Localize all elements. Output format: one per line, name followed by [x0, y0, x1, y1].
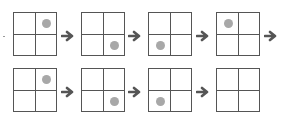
arrow-right-icon — [128, 28, 142, 40]
dot-icon — [156, 97, 165, 106]
grid-divider-horizontal — [14, 90, 56, 91]
arrow-right-icon — [61, 84, 75, 96]
dot-icon — [110, 41, 119, 50]
arrow-right-icon — [196, 84, 210, 96]
arrow-right-icon — [264, 28, 278, 40]
grid-2-2 — [81, 68, 125, 112]
arrow-right-icon — [61, 28, 75, 40]
grid-divider-horizontal — [149, 90, 191, 91]
grid-divider-horizontal — [149, 34, 191, 35]
stray-mark — [3, 36, 5, 37]
grid-1-4 — [216, 12, 260, 56]
grid-divider-horizontal — [82, 90, 124, 91]
dot-icon — [42, 75, 51, 84]
grid-2-3 — [148, 68, 192, 112]
grid-2-1 — [13, 68, 57, 112]
grid-divider-horizontal — [14, 34, 56, 35]
grid-2-4 — [216, 68, 260, 112]
dot-icon — [156, 41, 165, 50]
grid-1-2 — [81, 12, 125, 56]
grid-divider-horizontal — [217, 34, 259, 35]
dot-icon — [110, 97, 119, 106]
dot-icon — [224, 19, 233, 28]
grid-1-1 — [13, 12, 57, 56]
grid-1-3 — [148, 12, 192, 56]
grid-divider-horizontal — [217, 90, 259, 91]
arrow-right-icon — [128, 84, 142, 96]
arrow-right-icon — [196, 28, 210, 40]
dot-icon — [42, 19, 51, 28]
grid-divider-horizontal — [82, 34, 124, 35]
